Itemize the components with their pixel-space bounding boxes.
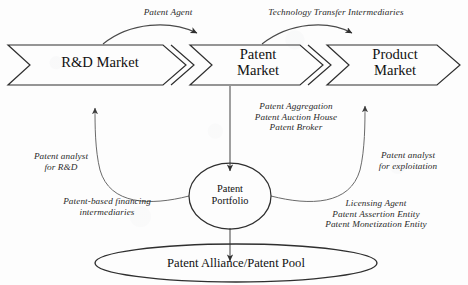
- stage-separator-1: [171, 45, 194, 85]
- annotation-patent-based-financing: Patent-based financing intermediaries: [40, 196, 174, 217]
- node-label-patent-portfolio: Patent Portfolio: [192, 183, 268, 208]
- stage-label-patent-market: Patent Market: [212, 47, 304, 79]
- diagram-canvas: R&D Market Patent Market Product Market …: [0, 0, 468, 285]
- stage-label-product-market: Product Market: [349, 47, 441, 79]
- arrow-technology-transfer: [262, 25, 352, 44]
- arrow-label-technology-transfer: Technology Transfer Intermediaries: [238, 7, 434, 18]
- arrow-portfolio-to-rd-market: [95, 108, 189, 201]
- annotation-licensing-agent-group: Licensing Agent Patent Assertion Entity …: [296, 198, 456, 230]
- stage-separator-2: [308, 45, 331, 85]
- annotation-patent-analyst-rd: Patent analyst for R&D: [16, 151, 106, 172]
- arrow-label-patent-agent: Patent Agent: [118, 7, 218, 18]
- stage-label-rd-market: R&D Market: [30, 55, 170, 71]
- diagram-vector-layer: [0, 0, 468, 285]
- node-label-patent-alliance: Patent Alliance/Patent Pool: [136, 256, 336, 271]
- annotation-patent-aggregation-group: Patent Aggregation Patent Auction House …: [234, 101, 358, 133]
- arrow-patent-agent: [103, 25, 197, 44]
- annotation-patent-analyst-exploitation: Patent analyst for exploitation: [360, 150, 456, 171]
